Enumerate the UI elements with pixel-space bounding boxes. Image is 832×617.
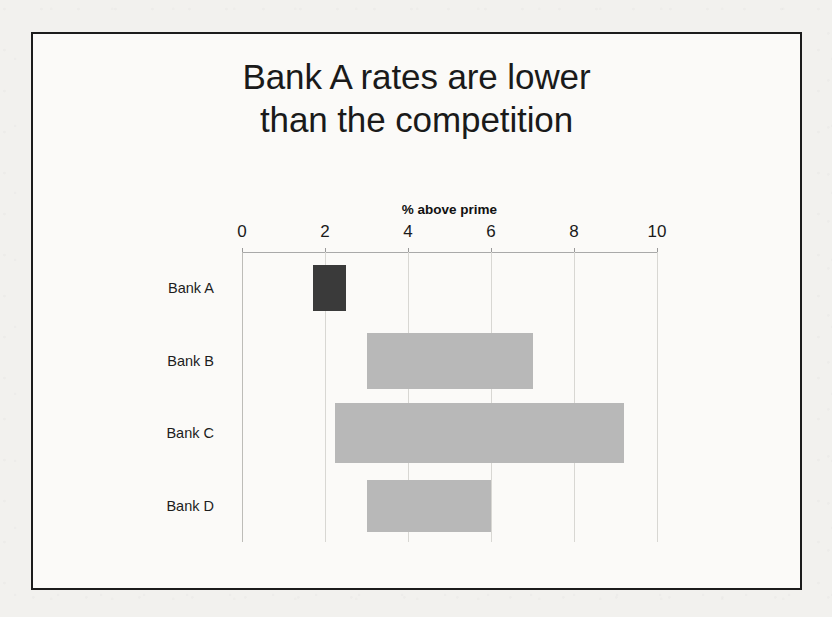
category-label-bank-c: Bank C (166, 425, 214, 441)
y-axis-line (242, 252, 243, 542)
x-axis-tick-labels: 0246810 (242, 222, 657, 246)
title-line-2: than the competition (33, 99, 800, 142)
category-label-bank-a: Bank A (168, 280, 214, 296)
bar-bank-c (335, 403, 623, 463)
plot-area: Bank ABank BBank CBank D (242, 252, 657, 542)
page-title: Bank A rates are lower than the competit… (33, 56, 800, 141)
title-line-1: Bank A rates are lower (33, 56, 800, 99)
category-label-bank-d: Bank D (166, 498, 214, 514)
x-tick-label-8: 8 (569, 222, 578, 242)
x-axis-line (242, 252, 657, 253)
x-tick-label-2: 2 (320, 222, 329, 242)
bar-bank-a (313, 265, 346, 311)
x-tick-label-4: 4 (403, 222, 412, 242)
x-tick-label-6: 6 (486, 222, 495, 242)
category-label-bank-b: Bank B (167, 353, 214, 369)
x-tick-label-0: 0 (237, 222, 246, 242)
gridline-8 (574, 252, 575, 542)
x-axis-title: % above prime (242, 202, 657, 217)
gridline-6 (491, 252, 492, 542)
gridline-10 (657, 252, 658, 542)
bar-bank-b (367, 333, 533, 389)
bar-bank-d (367, 480, 492, 532)
slide-frame: Bank A rates are lower than the competit… (31, 32, 802, 590)
x-tick-label-10: 10 (648, 222, 667, 242)
